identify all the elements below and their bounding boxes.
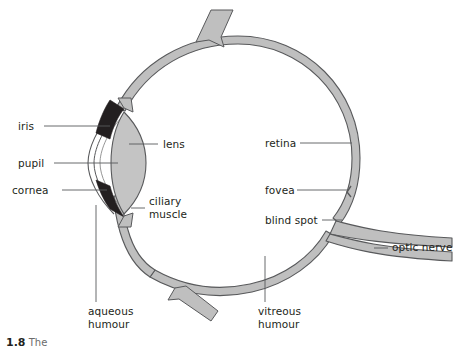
label-pupil: pupil (18, 157, 44, 170)
eye-anatomy-diagram: iris pupil cornea lens ciliary muscle re… (0, 0, 455, 346)
label-cornea: cornea (12, 184, 48, 197)
label-retina: retina (265, 137, 296, 150)
label-aqueous-humour-line1: aqueous (88, 305, 133, 318)
eye-cross-section-illustration (0, 0, 455, 346)
label-vitreous-humour-line1: vitreous (258, 305, 301, 318)
label-iris: iris (18, 120, 34, 133)
label-blind-spot: blind spot (265, 214, 318, 227)
sclera-wall-lower (150, 231, 333, 296)
label-ciliary-muscle-line1: ciliary (149, 195, 181, 208)
figure-caption-text: The (29, 337, 48, 346)
label-ciliary-muscle-line2: muscle (149, 208, 187, 221)
figure-caption: 1.8 The (6, 336, 47, 346)
label-lens: lens (163, 138, 185, 151)
label-fovea: fovea (265, 184, 295, 197)
label-optic-nerve: optic nerve (392, 241, 452, 254)
label-vitreous-humour-line2: humour (258, 318, 300, 331)
label-aqueous-humour-line2: humour (88, 318, 130, 331)
sclera-group (114, 36, 360, 296)
figure-number: 1.8 (6, 336, 26, 346)
